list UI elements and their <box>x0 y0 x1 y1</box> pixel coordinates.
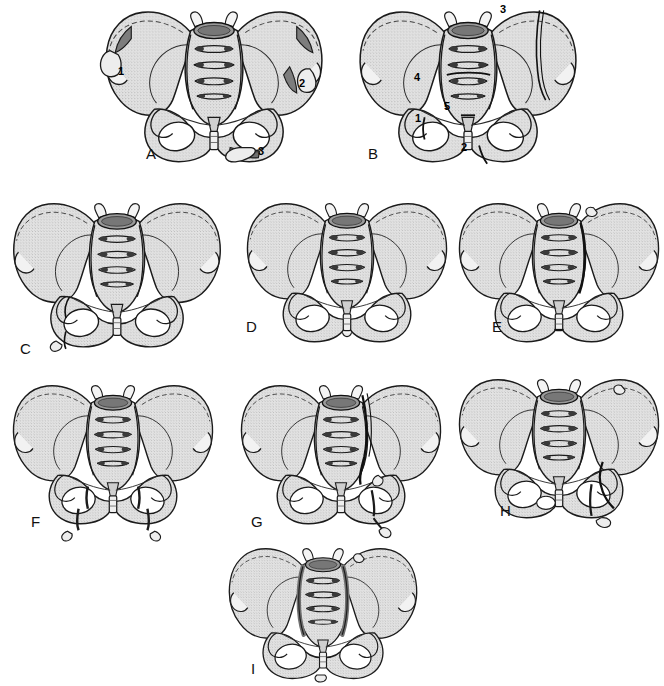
panel-letter-f: F <box>31 513 40 530</box>
fracture-right-superior-ramus <box>138 486 139 508</box>
panel-d <box>240 196 454 346</box>
panel-letter-d: D <box>246 318 257 335</box>
panel-letter-a: A <box>146 145 156 162</box>
panel-i <box>212 542 434 682</box>
fracture-left-inferior-ramus <box>77 509 78 530</box>
panel-letter-h: H <box>500 502 511 519</box>
bone-fragment-lower <box>379 527 391 537</box>
panel-f <box>6 378 220 528</box>
panel-a-marker-3: 3 <box>258 146 264 157</box>
panel-b-marker-2: 2 <box>461 142 467 153</box>
panel-a-marker-2: 2 <box>299 78 305 89</box>
iliac-crest-fragment <box>586 207 597 216</box>
panel-b-marker-3: 3 <box>500 4 506 15</box>
panel-b-marker-5: 5 <box>444 101 450 112</box>
panel-letter-g: G <box>251 513 263 530</box>
bone-fragment-lower <box>596 518 610 528</box>
panel-b-marker-4: 4 <box>414 72 420 83</box>
panel-c <box>6 196 228 351</box>
panel-e <box>452 196 664 346</box>
panel-a-marker-1: 1 <box>118 66 124 77</box>
symphysis-fragment <box>315 675 326 682</box>
bone-fragment <box>50 341 62 351</box>
symphysis-fragment <box>342 332 351 336</box>
panel-a <box>98 4 330 166</box>
bone-fragment-left <box>62 531 72 541</box>
panel-h <box>452 372 664 522</box>
fracture-right-inferior-ramus <box>147 509 148 530</box>
obturator-detail <box>537 496 556 509</box>
panel-letter-c: C <box>20 340 31 357</box>
fracture-left-superior-ramus <box>86 486 87 508</box>
panel-letter-e: E <box>492 318 502 335</box>
panel-b <box>352 4 584 166</box>
panel-g <box>234 378 448 528</box>
panel-letter-b: B <box>368 145 378 162</box>
panel-letter-i: I <box>251 660 255 677</box>
panel-b-marker-1: 1 <box>415 113 421 124</box>
bone-fragment-right <box>150 531 160 541</box>
